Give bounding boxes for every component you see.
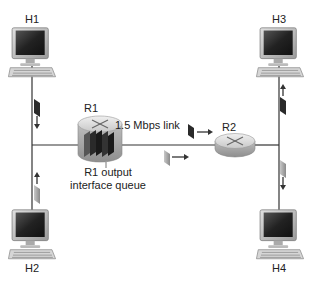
queue-label-line2: interface queue [68,179,148,192]
host-h4 [256,210,303,259]
link-label: 1.5 Mbps link [115,119,180,131]
queue-label-line1: R1 output [68,166,148,179]
packet-h2-up [34,172,40,204]
router-r2 [215,134,255,158]
label-r1: R1 [84,102,98,114]
packet-to-r2-2 [164,150,189,166]
packet-h1-down [34,99,40,129]
label-h1: H1 [25,13,39,25]
label-h4: H4 [272,262,286,274]
queue-label: R1 output interface queue [68,166,148,192]
host-h1 [8,28,55,77]
packet-to-r2 [188,124,213,139]
packet-h3-up [280,84,286,115]
label-h2: H2 [25,262,39,274]
network-diagram [0,0,320,290]
label-h3: H3 [272,13,286,25]
packet-h4-down [280,160,286,190]
host-h3 [256,28,303,77]
label-r2: R2 [222,121,236,133]
host-h2 [8,210,55,259]
